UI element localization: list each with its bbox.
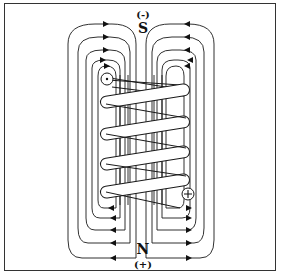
solenoid-diagram	[0, 0, 281, 276]
top-polarity-label: (-)	[128, 9, 158, 20]
north-pole-label: N	[128, 241, 158, 257]
south-pole-label: S	[128, 20, 158, 36]
bottom-polarity-label: (+)	[128, 259, 158, 270]
coil	[100, 73, 194, 208]
